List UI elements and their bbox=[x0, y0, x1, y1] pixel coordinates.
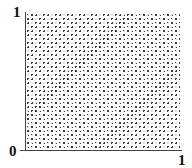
hatched-unit-square bbox=[26, 13, 180, 149]
origin-label: 0 bbox=[9, 144, 17, 159]
y-axis bbox=[25, 12, 26, 151]
x-axis bbox=[20, 150, 182, 151]
x-axis-label-one: 1 bbox=[178, 153, 186, 168]
y-axis-label-one: 1 bbox=[13, 5, 21, 20]
